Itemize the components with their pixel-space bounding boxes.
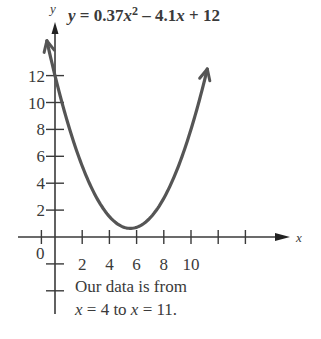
parabola-curve [47, 41, 207, 229]
y-axis-label: y [48, 1, 56, 16]
y-tick-label: 12 [28, 67, 45, 86]
y-axis-arrow-icon [52, 22, 59, 34]
chart-title: y = 0.37x2 – 4.1x + 12 [66, 4, 220, 25]
y-tick-label: 2 [37, 201, 46, 220]
origin-label: 0 [36, 244, 45, 263]
x-axis: x [18, 230, 302, 245]
annotation-line-1: Our data is from [75, 277, 187, 296]
x-axis-arrow-icon [275, 233, 290, 241]
x-tick-label: 2 [78, 255, 87, 274]
x-tick-label: 6 [132, 255, 141, 274]
x-tick-label: 8 [160, 255, 169, 274]
curve-arrowheads [44, 41, 210, 81]
quadratic-chart: y = 0.37x2 – 4.1x + 12 y 24681012 x 2468… [0, 0, 321, 339]
y-tick-label: 8 [37, 120, 46, 139]
annotation-line-2: x = 4 to x = 11. [74, 300, 177, 319]
x-axis-label: x [295, 230, 302, 245]
y-tick-label: 10 [28, 94, 45, 113]
y-tick-label: 6 [37, 147, 46, 166]
x-tick-label: 4 [105, 255, 114, 274]
x-tick-label: 10 [183, 255, 200, 274]
y-tick-label: 4 [37, 174, 46, 193]
y-ticks: 24681012 [28, 67, 64, 291]
